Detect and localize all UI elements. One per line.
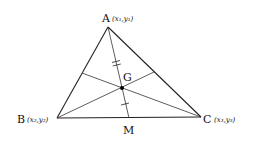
median-c	[82, 73, 201, 117]
label-a: A	[101, 12, 111, 25]
side-ac	[108, 27, 201, 117]
label-m: M	[123, 124, 134, 137]
triangle-diagram: A (x₁,y₁) B (x₂,y₂) C (x₃,y₃) G M	[0, 0, 256, 144]
label-c-coords: (x₃,y₃)	[214, 116, 235, 124]
label-c: C	[203, 113, 211, 126]
single-tick-gm	[121, 103, 129, 105]
label-g: G	[123, 71, 132, 84]
side-ab	[57, 27, 108, 118]
label-a-coords: (x₁,y₁)	[112, 15, 133, 23]
label-b: B	[17, 113, 25, 126]
centroid-point	[120, 86, 124, 90]
median-b	[57, 72, 154, 118]
label-b-coords: (x₂,y₂)	[27, 116, 48, 124]
